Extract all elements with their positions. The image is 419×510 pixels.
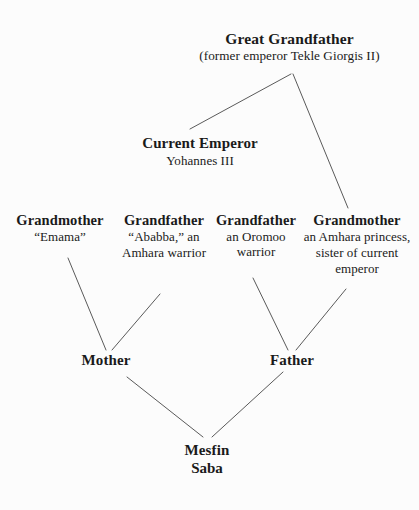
node-mother: Mother [60, 352, 152, 370]
node-current-emperor: Current Emperor Yohannes III [110, 135, 290, 168]
node-grandmother-paternal-title: Grandmother [298, 212, 416, 229]
node-current-emperor-subtitle: Yohannes III [110, 153, 290, 168]
node-grandmother-paternal: Grandmother an Amhara princess, sister o… [298, 212, 416, 277]
edge-father-child [212, 372, 283, 437]
node-great-grandfather: Great Grandfather (former emperor Tekle … [160, 30, 419, 64]
node-father: Father [246, 352, 338, 370]
edge-greatgrandfather-currentemperor [190, 74, 291, 129]
node-mother-title: Mother [60, 352, 152, 370]
edge-grandfatherpaternal-father [253, 278, 288, 350]
node-child-first-name: Mesfin [147, 442, 267, 460]
node-grandfather-maternal: Grandfather “Ababba,” an Amhara warrior [112, 212, 216, 261]
node-grandmother-maternal-subtitle: “Emama” [6, 229, 114, 244]
node-grandfather-paternal-subtitle: an Oromoo warrior [210, 229, 302, 260]
node-child-second-name: Saba [147, 460, 267, 478]
node-grandfather-maternal-subtitle: “Ababba,” an Amhara warrior [112, 229, 216, 261]
edge-grandmothermaternal-mother [68, 258, 106, 350]
node-grandfather-paternal: Grandfather an Oromoo warrior [210, 212, 302, 260]
node-father-title: Father [246, 352, 338, 370]
node-child-mesfin-saba: Mesfin Saba [147, 442, 267, 477]
node-grandmother-maternal-title: Grandmother [6, 212, 114, 229]
node-grandfather-paternal-title: Grandfather [210, 212, 302, 229]
node-current-emperor-title: Current Emperor [110, 135, 290, 153]
edge-greatgrandfather-grandmotherpaternal [293, 74, 348, 208]
node-great-grandfather-subtitle: (former emperor Tekle Giorgis II) [160, 48, 419, 64]
family-tree-diagram: Great Grandfather (former emperor Tekle … [0, 0, 419, 510]
node-grandmother-maternal: Grandmother “Emama” [6, 212, 114, 244]
node-grandfather-maternal-title: Grandfather [112, 212, 216, 229]
edge-mother-child [127, 377, 203, 437]
edge-grandfathermaternal-mother [112, 294, 160, 350]
node-great-grandfather-title: Great Grandfather [160, 30, 419, 48]
edge-grandmotherpaternal-father [296, 289, 346, 350]
node-grandmother-paternal-subtitle: an Amhara princess, sister of current em… [298, 229, 416, 277]
